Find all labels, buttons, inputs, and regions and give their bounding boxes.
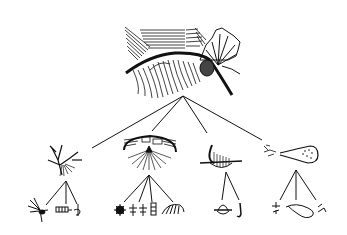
- diagram-svg: [0, 0, 347, 235]
- curl-mark: [74, 204, 80, 216]
- ladder-mark: [151, 203, 156, 215]
- twin-sprigs: [129, 204, 147, 216]
- node-1: [48, 145, 82, 176]
- small-glyph: [272, 202, 280, 214]
- level2-items: [28, 198, 326, 222]
- tree-diagram: [0, 0, 347, 235]
- loop-shape: [286, 205, 313, 218]
- fan-mark: [162, 204, 184, 214]
- saucer-shape: [214, 205, 232, 214]
- rosette: [114, 204, 126, 216]
- node-2: [124, 136, 176, 170]
- hook-mark: [237, 203, 241, 217]
- starburst-sprig: [28, 198, 48, 222]
- connector-lines: [46, 96, 316, 205]
- root-drawing: [125, 27, 240, 98]
- node-4: [264, 145, 318, 163]
- small-mark: [318, 204, 326, 212]
- node-3: [200, 145, 242, 168]
- hatched-bar: [56, 207, 72, 212]
